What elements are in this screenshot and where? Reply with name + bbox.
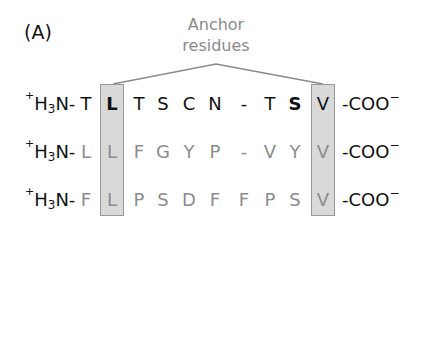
charge-minus: − [389,186,399,200]
residue: N [204,89,226,119]
residue: - [233,137,255,167]
c-suffix-main: -COO [342,141,389,162]
residue: - [233,89,255,119]
residue: F [204,185,226,215]
anchor-residue: S [284,89,306,119]
residue: G [152,137,174,167]
residue: P [204,137,226,167]
sequence-row: +H3N-FLPSDFFPSV-COO− [0,185,443,215]
residue: S [152,185,174,215]
n-terminus-label: +H3N- [25,185,75,215]
residue: T [259,89,281,119]
anchor-residue: S [284,185,306,215]
charge-plus: + [25,89,34,102]
n-prefix-h: H [34,189,48,210]
sequence-row: +H3N-TLTSCN-TSV-COO− [0,89,443,119]
charge-plus: + [25,137,34,150]
residue: F [75,185,97,215]
n-terminus-label: +H3N- [25,89,75,119]
c-terminus-label: -COO− [342,89,399,119]
n-terminus-label: +H3N- [25,137,75,167]
residue: C [178,89,200,119]
c-terminus-label: -COO− [342,137,399,167]
anchor-residue: L [101,137,123,167]
anchor-residue: Y [284,137,306,167]
residue: T [75,89,97,119]
residue: V [312,137,334,167]
residue: V [259,137,281,167]
anchor-residue: L [101,89,123,119]
n-prefix-tail: N- [55,141,75,162]
charge-plus: + [25,185,34,198]
c-suffix-main: -COO [342,93,389,114]
sequence-row: +H3N-LLFGYP-VYV-COO− [0,137,443,167]
residue: T [128,89,150,119]
c-suffix-main: -COO [342,189,389,210]
residue: P [128,185,150,215]
residue: F [128,137,150,167]
c-terminus-label: -COO− [342,185,399,215]
residue: P [259,185,281,215]
n-prefix-tail: N- [55,189,75,210]
residue: V [312,89,334,119]
charge-minus: − [389,90,399,104]
residue: D [178,185,200,215]
charge-minus: − [389,138,399,152]
n-prefix-h: H [34,141,48,162]
anchor-connector-lines [0,0,443,344]
residue: S [152,89,174,119]
anchor-residue: L [101,185,123,215]
residue: V [312,185,334,215]
residue: Y [178,137,200,167]
residue: F [233,185,255,215]
n-prefix-h: H [34,93,48,114]
residue: L [75,137,97,167]
n-prefix-tail: N- [55,93,75,114]
